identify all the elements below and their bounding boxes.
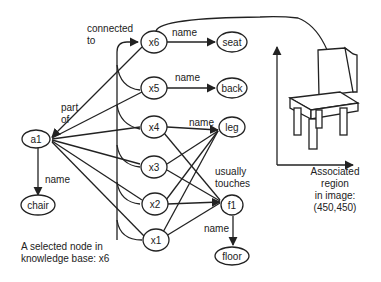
edge-x4-a1 (52, 127, 140, 139)
connected-to-label-2: to (87, 35, 95, 47)
node-x5-label: x5 (149, 83, 160, 94)
x5-back-name-label: name (175, 72, 200, 84)
node-leg-label: leg (225, 122, 238, 133)
edge-x3-leg (167, 131, 218, 164)
part-of-label-2: of (61, 114, 69, 126)
edge-x3-f1 (167, 170, 220, 201)
node-back-label: back (221, 83, 243, 94)
node-x3-label: x3 (149, 162, 160, 173)
f1-floor-name-label: name (204, 223, 229, 235)
region-caption-4: (450,450) (290, 202, 380, 214)
region-caption-2: region (290, 178, 380, 190)
selected-node-caption-1: A selected node in (21, 241, 103, 253)
edge-x1-a1 (52, 142, 144, 236)
part-of-label-1: part (61, 102, 78, 114)
node-x2-label: x2 (150, 199, 161, 210)
knowledge-graph-diagram: a1 chair x6 x5 x4 x3 x2 x1 seat back leg… (0, 0, 381, 282)
node-floor-label: floor (222, 251, 242, 262)
edge-bus-x4 (117, 105, 140, 129)
node-f1-label: f1 (228, 200, 237, 211)
a1-chair-name-label: name (45, 174, 70, 186)
usually-touches-label-1: usually (215, 166, 246, 178)
chair-image-icon (290, 48, 358, 149)
node-x6-label: x6 (149, 37, 160, 48)
node-x1-label: x1 (151, 235, 162, 246)
x6-seat-name-label: name (172, 27, 197, 39)
edge-connected-to-bus (117, 42, 138, 240)
x4-leg-name-label: name (189, 117, 214, 129)
node-x4-label: x4 (149, 122, 160, 133)
edge-x2-f1 (167, 202, 220, 204)
edge-x3-a1 (52, 140, 140, 164)
edge-x2-a1 (52, 141, 142, 200)
node-seat-label: seat (223, 37, 242, 48)
selected-node-caption-2: knowledge base: x6 (21, 253, 109, 265)
region-caption-1: Associated (290, 166, 380, 178)
edge-x1-leg (162, 131, 218, 234)
usually-touches-label-2: touches (215, 178, 250, 190)
region-caption-3: in image: (290, 190, 380, 202)
node-a1-label: a1 (30, 134, 42, 145)
connected-to-label-1: connected (87, 23, 133, 35)
node-chair-label: chair (27, 200, 49, 211)
